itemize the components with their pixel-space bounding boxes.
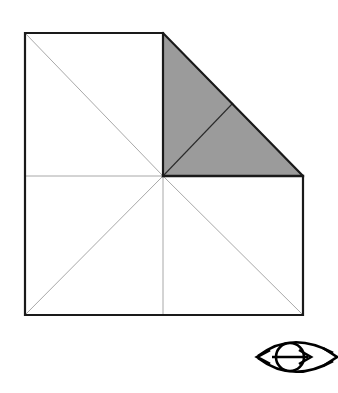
geometry-figure [0, 0, 338, 393]
figure-container [0, 0, 338, 393]
